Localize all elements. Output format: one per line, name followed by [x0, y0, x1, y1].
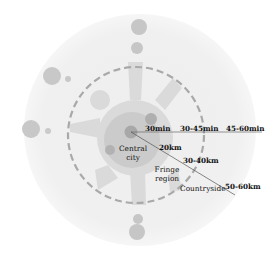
distance-label-30-40km: 30-40km [183, 157, 219, 164]
time-label-45-60min: 45-60min [226, 125, 265, 132]
urban-region-diagram: 30min 30-45min 45-60min 20km 30-40km 50-… [0, 0, 279, 261]
distance-label-20km: 20km [159, 144, 182, 151]
distance-label-50-60km: 50-60km [225, 183, 261, 190]
satellite-node-left [43, 67, 61, 85]
inner-node-sw [105, 145, 115, 155]
time-label-30min: 30min [145, 125, 171, 132]
satellite-node-top [131, 19, 147, 35]
zone-label-fringe-region: Fringe region [151, 166, 183, 183]
zone-label-central-city: Central city [115, 145, 151, 162]
satellite-node-west-small [45, 128, 51, 134]
satellite-node-bottom [129, 224, 145, 240]
satellite-node-top-small [131, 42, 143, 54]
zone-label-countryside: Countryside [180, 185, 226, 192]
satellite-node-left-small [65, 76, 71, 82]
time-label-30-45min: 30-45min [180, 125, 219, 132]
satellite-node-bottom-top [133, 214, 143, 224]
satellite-node-west [22, 120, 40, 138]
